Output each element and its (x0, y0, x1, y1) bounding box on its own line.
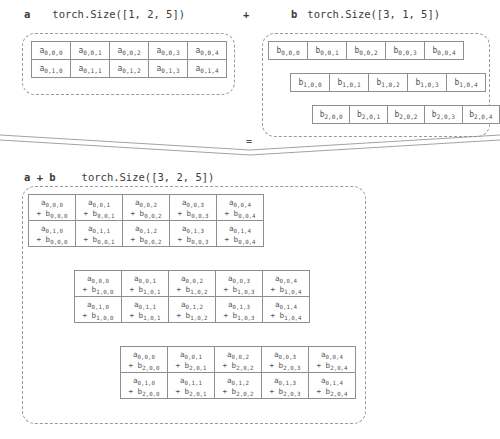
tensor-a-size: torch.Size([1, 2, 5]) (52, 8, 185, 20)
tensor-result-cell-0-1-0: a0,1,0+ b0,0,0 (29, 221, 76, 247)
tensor-result-cell-1-1-4: a0,1,4+ b1,0,4 (263, 297, 310, 323)
tensor-b-cell-1-3: b1,0,3 (408, 74, 447, 92)
tensor-a-cell-0-0: a0,0,0 (32, 42, 71, 60)
tensor-a-row: a0,1,0a0,1,1a0,1,2a0,1,3a0,1,4 (32, 60, 227, 78)
tensor-b-row: b1,0,0b1,0,1b1,0,2b1,0,3b1,0,4 (291, 74, 486, 92)
tensor-a-row: a0,0,0a0,0,1a0,0,2a0,0,3a0,0,4 (32, 42, 227, 60)
tensor-result-row: a0,1,0+ b1,0,0a0,1,1+ b1,0,1a0,1,2+ b1,0… (75, 297, 310, 323)
tensor-result-row: a0,1,0+ b0,0,0a0,1,1+ b0,0,1a0,1,2+ b0,0… (29, 221, 264, 247)
tensor-b-cell-0-4: b0,0,4 (425, 42, 464, 60)
tensor-a-cell-0-1: a0,0,1 (71, 42, 110, 60)
tensor-result-cell-0-1-1: a0,1,1+ b0,0,1 (76, 221, 123, 247)
tensor-result-cell-0-0-1: a0,0,1+ b0,0,1 (76, 195, 123, 221)
tensor-result-cell-1-1-1: a0,1,1+ b1,0,1 (122, 297, 169, 323)
tensor-b-cell-2-0: b2,0,0 (313, 106, 350, 124)
tensor-result-cell-1-1-3: a0,1,3+ b1,0,3 (216, 297, 263, 323)
tensor-result-cell-2-1-4: a0,1,4+ b2,0,4 (309, 373, 356, 399)
plus-operator: + (243, 8, 249, 20)
tensor-a-cell-1-4: a0,1,4 (188, 60, 227, 78)
tensor-result-size: torch.Size([3, 2, 5]) (82, 171, 215, 183)
tensor-result-cell-1-0-4: a0,0,4+ b1,0,4 (263, 271, 310, 297)
tensor-result-cell-0-1-3: a0,1,3+ b0,0,3 (170, 221, 217, 247)
tensor-result-cell-2-0-4: a0,0,4+ b2,0,4 (309, 347, 356, 373)
tensor-a-name: a (24, 8, 30, 20)
tensor-b-cell-0-2: b0,0,2 (347, 42, 386, 60)
tensor-result-cell-0-1-2: a0,1,2+ b0,0,2 (123, 221, 170, 247)
tensor-b-cell-2-2: b2,0,2 (387, 106, 424, 124)
tensor-result-name: a + b (24, 171, 56, 183)
tensor-b-cell-0-0: b0,0,0 (269, 42, 308, 60)
tensor-result-header: a + btorch.Size([3, 2, 5]) (24, 171, 214, 183)
tensor-result-cell-2-1-3: a0,1,3+ b2,0,3 (262, 373, 309, 399)
tensor-a-grid: a0,0,0a0,0,1a0,0,2a0,0,3a0,0,4a0,1,0a0,1… (31, 41, 227, 78)
tensor-result-slice-1: a0,0,0+ b1,0,0a0,0,1+ b1,0,1a0,0,2+ b1,0… (74, 270, 310, 323)
tensor-b-size: torch.Size([3, 1, 5]) (307, 8, 440, 20)
tensor-b-cell-1-4: b1,0,4 (447, 74, 486, 92)
tensor-b-cell-1-2: b1,0,2 (369, 74, 408, 92)
tensor-result-cell-2-1-1: a0,1,1+ b2,0,1 (168, 373, 215, 399)
tensor-b-slice-2: b2,0,0b2,0,1b2,0,2b2,0,3b2,0,4 (312, 105, 500, 124)
tensor-b-cell-2-3: b2,0,3 (425, 106, 462, 124)
tensor-result-row: a0,0,0+ b2,0,0a0,0,1+ b2,0,1a0,0,2+ b2,0… (121, 347, 356, 373)
tensor-result-cell-1-0-2: a0,0,2+ b1,0,2 (169, 271, 216, 297)
tensor-a-cell-1-1: a0,1,1 (71, 60, 110, 78)
tensor-b-cell-2-4: b2,0,4 (462, 106, 499, 124)
tensor-result-cell-1-1-2: a0,1,2+ b1,0,2 (169, 297, 216, 323)
tensor-b-row: b0,0,0b0,0,1b0,0,2b0,0,3b0,0,4 (269, 42, 464, 60)
tensor-b-cell-0-1: b0,0,1 (308, 42, 347, 60)
tensor-b-slice-0: b0,0,0b0,0,1b0,0,2b0,0,3b0,0,4 (268, 41, 464, 60)
tensor-b-slice-1: b1,0,0b1,0,1b1,0,2b1,0,3b1,0,4 (290, 73, 486, 92)
tensor-a-cell-1-2: a0,1,2 (110, 60, 149, 78)
tensor-a-header: atorch.Size([1, 2, 5]) (24, 8, 185, 20)
tensor-result-row: a0,0,0+ b1,0,0a0,0,1+ b1,0,1a0,0,2+ b1,0… (75, 271, 310, 297)
tensor-result-cell-0-0-4: a0,0,4+ b0,0,4 (217, 195, 264, 221)
tensor-result-row: a0,0,0+ b0,0,0a0,0,1+ b0,0,1a0,0,2+ b0,0… (29, 195, 264, 221)
tensor-result-cell-2-0-0: a0,0,0+ b2,0,0 (121, 347, 168, 373)
tensor-b-cell-0-3: b0,0,3 (386, 42, 425, 60)
tensor-a-cell-1-0: a0,1,0 (32, 60, 71, 78)
tensor-a-cell-0-2: a0,0,2 (110, 42, 149, 60)
tensor-result-cell-2-1-2: a0,1,2+ b2,0,2 (215, 373, 262, 399)
tensor-result-cell-1-0-0: a0,0,0+ b1,0,0 (75, 271, 122, 297)
tensor-result-cell-2-0-2: a0,0,2+ b2,0,2 (215, 347, 262, 373)
tensor-result-row: a0,1,0+ b2,0,0a0,1,1+ b2,0,1a0,1,2+ b2,0… (121, 373, 356, 399)
tensor-result-cell-1-0-1: a0,0,1+ b1,0,1 (122, 271, 169, 297)
tensor-b-cell-1-1: b1,0,1 (330, 74, 369, 92)
tensor-result-cell-0-0-2: a0,0,2+ b0,0,2 (123, 195, 170, 221)
tensor-a-cell-0-3: a0,0,3 (149, 42, 188, 60)
tensor-b-name: b (291, 8, 297, 20)
tensor-result-cell-1-1-0: a0,1,0+ b1,0,0 (75, 297, 122, 323)
tensor-b-header: btorch.Size([3, 1, 5]) (291, 8, 440, 20)
tensor-result-cell-0-1-4: a0,1,4+ b0,0,4 (217, 221, 264, 247)
tensor-a-cell-0-4: a0,0,4 (188, 42, 227, 60)
tensor-b-cell-2-1: b2,0,1 (350, 106, 387, 124)
equals-sign: = (246, 136, 252, 147)
tensor-result-cell-1-0-3: a0,0,3+ b1,0,3 (216, 271, 263, 297)
tensor-b-cell-1-0: b1,0,0 (291, 74, 330, 92)
tensor-a-cell-1-3: a0,1,3 (149, 60, 188, 78)
tensor-result-cell-0-0-3: a0,0,3+ b0,0,3 (170, 195, 217, 221)
tensor-result-cell-0-0-0: a0,0,0+ b0,0,0 (29, 195, 76, 221)
tensor-result-cell-2-0-3: a0,0,3+ b2,0,3 (262, 347, 309, 373)
tensor-result-cell-2-0-1: a0,0,1+ b2,0,1 (168, 347, 215, 373)
tensor-result-slice-2: a0,0,0+ b2,0,0a0,0,1+ b2,0,1a0,0,2+ b2,0… (120, 346, 356, 399)
tensor-result-cell-2-1-0: a0,1,0+ b2,0,0 (121, 373, 168, 399)
tensor-result-slice-0: a0,0,0+ b0,0,0a0,0,1+ b0,0,1a0,0,2+ b0,0… (28, 194, 264, 247)
tensor-b-row: b2,0,0b2,0,1b2,0,2b2,0,3b2,0,4 (313, 106, 500, 124)
